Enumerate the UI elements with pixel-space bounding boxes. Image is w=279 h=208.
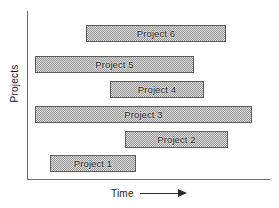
gantt-bar-project-1[interactable]: Project 1 xyxy=(50,155,136,172)
arrow-head xyxy=(178,189,187,197)
gantt-bar-project-3[interactable]: Project 3 xyxy=(35,106,252,123)
x-axis-line xyxy=(27,179,270,180)
y-axis-label: Projects xyxy=(9,54,20,114)
x-axis-label-group: Time xyxy=(111,186,188,200)
gantt-bar-label: Project 3 xyxy=(124,109,162,120)
gantt-bar-label: Project 5 xyxy=(95,59,133,70)
x-axis-label: Time xyxy=(111,188,134,199)
gantt-chart: Projects Time Project 6 Project 5 Projec… xyxy=(0,0,279,208)
gantt-bar-project-5[interactable]: Project 5 xyxy=(35,56,194,73)
gantt-bar-label: Project 1 xyxy=(74,158,112,169)
gantt-bar-project-4[interactable]: Project 4 xyxy=(110,81,204,98)
gantt-bar-project-2[interactable]: Project 2 xyxy=(125,131,228,148)
y-axis-line xyxy=(27,11,28,180)
gantt-bar-label: Project 4 xyxy=(138,84,176,95)
gantt-bar-label: Project 2 xyxy=(157,134,195,145)
gantt-bar-label: Project 6 xyxy=(137,28,175,39)
arrow-line xyxy=(140,193,180,194)
gantt-bar-project-6[interactable]: Project 6 xyxy=(86,25,226,42)
arrow-right-icon xyxy=(140,189,188,198)
